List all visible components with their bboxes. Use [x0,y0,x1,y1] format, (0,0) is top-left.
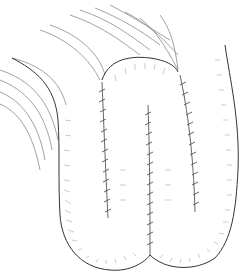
shading-hatches [64,60,232,264]
illustration-canvas [0,0,251,280]
suture-line-1 [99,82,111,218]
suture-line-3 [180,75,199,212]
bowel-loops-illustration [0,0,251,280]
suture-line-2 [145,105,153,255]
mesentery-strands [0,5,178,170]
bowel-outline [12,45,238,270]
